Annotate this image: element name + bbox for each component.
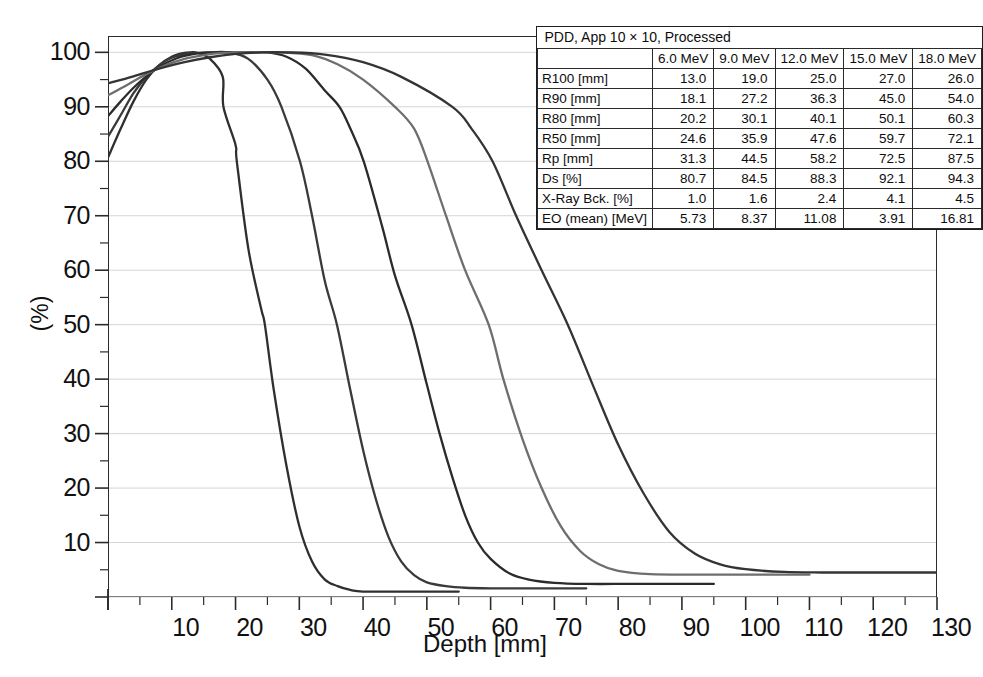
table-header-energy: 12.0 MeV <box>775 49 844 69</box>
table-header-row: 6.0 MeV9.0 MeV12.0 MeV15.0 MeV18.0 MeV <box>538 49 982 69</box>
table-caption-row: PDD, App 10 × 10, Processed <box>538 27 982 49</box>
table-cell-value: 72.5 <box>844 149 913 169</box>
table-cell-value: 50.1 <box>844 109 913 129</box>
table-cell-value: 30.1 <box>714 109 775 129</box>
table-cell-value: 4.5 <box>913 189 982 209</box>
table-row: R90 [mm]18.127.236.345.054.0 <box>538 89 982 109</box>
table-cell-value: 1.6 <box>714 189 775 209</box>
x-axis-title: Depth [mm] <box>0 630 970 658</box>
table-cell-value: 18.1 <box>653 89 714 109</box>
table-cell-value: 31.3 <box>653 149 714 169</box>
table-header-corner <box>538 49 653 69</box>
table-cell-value: 92.1 <box>844 169 913 189</box>
y-tick-label: 90 <box>20 94 90 119</box>
table-cell-value: 84.5 <box>714 169 775 189</box>
y-tick-label: 100 <box>20 39 90 64</box>
table-row: Rp [mm]31.344.558.272.587.5 <box>538 149 982 169</box>
table-cell-value: 72.1 <box>913 129 982 149</box>
table-row: R50 [mm]24.635.947.659.772.1 <box>538 129 982 149</box>
y-tick-label: 30 <box>20 421 90 446</box>
pdd-results-table: PDD, App 10 × 10, Processed 6.0 MeV9.0 M… <box>536 26 983 230</box>
table-row: X-Ray Bck. [%]1.01.62.44.14.5 <box>538 189 982 209</box>
table-row-label: R80 [mm] <box>538 109 653 129</box>
table-header-energy: 18.0 MeV <box>913 49 982 69</box>
table-row-label: X-Ray Bck. [%] <box>538 189 653 209</box>
table-cell-value: 5.73 <box>653 209 714 229</box>
table-body: R100 [mm]13.019.025.027.026.0R90 [mm]18.… <box>538 69 982 229</box>
table-row-label: R90 [mm] <box>538 89 653 109</box>
table-header-energy: 9.0 MeV <box>714 49 775 69</box>
table-cell-value: 20.2 <box>653 109 714 129</box>
y-tick-label: 10 <box>20 530 90 555</box>
table-row-label: EO (mean) [MeV] <box>538 209 653 229</box>
table-row: Ds [%]80.784.588.392.194.3 <box>538 169 982 189</box>
y-tick-label: 20 <box>20 475 90 500</box>
table-head: PDD, App 10 × 10, Processed 6.0 MeV9.0 M… <box>538 27 982 69</box>
y-axis-title: (%) <box>27 254 54 374</box>
table-cell-value: 1.0 <box>653 189 714 209</box>
table-cell-value: 54.0 <box>913 89 982 109</box>
table-caption: PDD, App 10 × 10, Processed <box>538 27 982 49</box>
table-row-label: Ds [%] <box>538 169 653 189</box>
pdd-table: PDD, App 10 × 10, Processed 6.0 MeV9.0 M… <box>537 27 982 229</box>
table-cell-value: 26.0 <box>913 69 982 89</box>
table-cell-value: 87.5 <box>913 149 982 169</box>
table-cell-value: 8.37 <box>714 209 775 229</box>
table-cell-value: 45.0 <box>844 89 913 109</box>
table-row-label: Rp [mm] <box>538 149 653 169</box>
y-tick-label: 70 <box>20 203 90 228</box>
table-cell-value: 25.0 <box>775 69 844 89</box>
table-cell-value: 59.7 <box>844 129 913 149</box>
table-cell-value: 3.91 <box>844 209 913 229</box>
table-cell-value: 58.2 <box>775 149 844 169</box>
table-row-label: R100 [mm] <box>538 69 653 89</box>
table-cell-value: 24.6 <box>653 129 714 149</box>
table-cell-value: 35.9 <box>714 129 775 149</box>
table-cell-value: 44.5 <box>714 149 775 169</box>
table-row: R80 [mm]20.230.140.150.160.3 <box>538 109 982 129</box>
table-cell-value: 40.1 <box>775 109 844 129</box>
table-cell-value: 27.2 <box>714 89 775 109</box>
table-cell-value: 94.3 <box>913 169 982 189</box>
table-row: EO (mean) [MeV]5.738.3711.083.9116.81 <box>538 209 982 229</box>
table-cell-value: 27.0 <box>844 69 913 89</box>
table-cell-value: 19.0 <box>714 69 775 89</box>
table-row: R100 [mm]13.019.025.027.026.0 <box>538 69 982 89</box>
table-cell-value: 2.4 <box>775 189 844 209</box>
table-cell-value: 80.7 <box>653 169 714 189</box>
y-tick-label: 80 <box>20 148 90 173</box>
table-cell-value: 11.08 <box>775 209 844 229</box>
table-row-label: R50 [mm] <box>538 129 653 149</box>
table-cell-value: 16.81 <box>913 209 982 229</box>
table-cell-value: 88.3 <box>775 169 844 189</box>
table-header-energy: 6.0 MeV <box>653 49 714 69</box>
table-cell-value: 47.6 <box>775 129 844 149</box>
table-cell-value: 13.0 <box>653 69 714 89</box>
table-cell-value: 4.1 <box>844 189 913 209</box>
table-cell-value: 60.3 <box>913 109 982 129</box>
table-cell-value: 36.3 <box>775 89 844 109</box>
table-header-energy: 15.0 MeV <box>844 49 913 69</box>
